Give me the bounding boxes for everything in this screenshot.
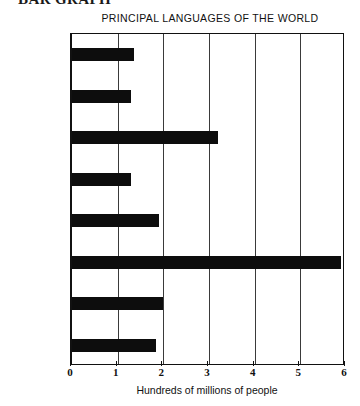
bar (72, 297, 163, 310)
category-label: Arabic (0, 48, 64, 60)
x-tick-label: 5 (296, 366, 302, 378)
x-tick-label: 1 (113, 366, 119, 378)
bar (72, 48, 134, 61)
category-label-line: Mandarin (0, 249, 64, 261)
bar-row (72, 76, 343, 118)
x-tick-label: 0 (67, 366, 73, 378)
bar-row (72, 117, 343, 159)
category-label: Bengali (0, 89, 64, 101)
x-tick-label: 4 (250, 366, 256, 378)
bar-row (72, 242, 343, 284)
category-label: Russian (0, 297, 64, 309)
x-axis-label: Hundreds of millions of people (70, 384, 344, 396)
bar (72, 131, 218, 144)
bar-row (72, 159, 343, 201)
category-label: English (0, 131, 64, 143)
category-label: German (0, 172, 64, 184)
category-label-line: Bengali (0, 89, 64, 101)
bar (72, 173, 131, 186)
x-axis-ticks: 0123456 (70, 366, 344, 382)
bar (72, 256, 341, 269)
chart-plot-area (70, 33, 344, 365)
category-label-line: Russian (0, 297, 64, 309)
category-label-line: English (0, 131, 64, 143)
category-label: Mandarin(Chinese) (0, 249, 64, 273)
bar-row (72, 283, 343, 325)
bar (72, 90, 131, 103)
x-tick-label: 3 (204, 366, 210, 378)
category-label-line: Arabic (0, 48, 64, 60)
category-label-line: Spanish (0, 338, 64, 350)
bar-row (72, 200, 343, 242)
bar (72, 339, 156, 352)
category-label-line: German (0, 172, 64, 184)
category-label-line: (Chinese) (0, 261, 64, 273)
bar (72, 214, 159, 227)
bar-row (72, 325, 343, 367)
x-tick-label: 6 (341, 366, 347, 378)
category-label-line: Hindi (0, 214, 64, 226)
bar-row (72, 34, 343, 76)
chart-title: PRINCIPAL LANGUAGES OF THE WORLD (70, 12, 350, 24)
section-heading: BAR GRAPH (18, 0, 111, 8)
x-tick-label: 2 (159, 366, 165, 378)
category-label: Hindi (0, 214, 64, 226)
category-label: Spanish (0, 338, 64, 350)
